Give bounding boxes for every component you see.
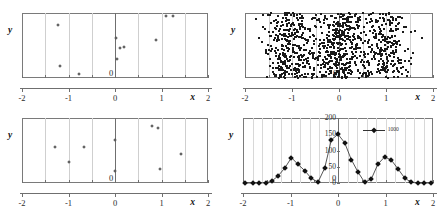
data-point	[118, 47, 121, 50]
data-point	[395, 51, 397, 53]
data-point	[280, 66, 282, 68]
data-point	[309, 36, 311, 38]
data-point	[380, 41, 382, 43]
data-point	[363, 26, 365, 28]
data-point	[301, 23, 303, 25]
data-point	[299, 75, 301, 77]
data-point	[313, 40, 315, 42]
data-point	[67, 160, 70, 163]
data-point	[385, 76, 387, 78]
data-point	[57, 23, 60, 26]
data-point	[336, 32, 338, 34]
data-point	[329, 70, 331, 72]
data-point	[379, 31, 381, 33]
data-point	[288, 30, 290, 32]
x-tick-label: -1	[287, 199, 294, 208]
data-point	[351, 58, 353, 60]
data-point	[346, 53, 348, 55]
data-point	[319, 71, 321, 73]
data-point	[395, 19, 397, 21]
data-point	[309, 30, 311, 32]
data-point	[370, 13, 372, 15]
data-point	[349, 13, 351, 15]
x-tick-label: 1	[383, 199, 387, 208]
data-point	[386, 58, 388, 60]
data-point	[337, 13, 339, 15]
data-point	[328, 73, 330, 75]
data-point	[392, 65, 394, 67]
data-point	[305, 76, 307, 78]
data-point	[78, 73, 81, 76]
data-point	[293, 56, 295, 58]
data-point	[329, 67, 331, 69]
data-point	[361, 59, 363, 61]
plot-area: -2-10120yx	[22, 13, 208, 78]
data-point	[315, 38, 317, 40]
data-point	[343, 55, 345, 57]
data-point	[391, 22, 393, 24]
data-point	[346, 25, 348, 27]
data-point	[354, 14, 356, 16]
data-point	[283, 29, 285, 31]
plot-area: -2-10120yx	[245, 13, 433, 78]
data-point	[359, 16, 361, 18]
data-point	[317, 64, 319, 66]
data-point	[311, 47, 313, 49]
legend-diamond-icon	[371, 128, 376, 133]
data-point	[355, 51, 357, 53]
data-point	[320, 67, 322, 69]
data-point	[375, 37, 377, 39]
data-point	[332, 24, 334, 26]
data-point	[277, 37, 279, 39]
data-point	[395, 29, 397, 31]
data-point	[385, 23, 387, 25]
data-point	[392, 30, 394, 32]
data-point	[339, 34, 341, 36]
data-point	[270, 12, 272, 14]
data-point	[286, 47, 288, 49]
data-point	[307, 60, 309, 62]
legend-marker	[363, 127, 385, 133]
data-point	[327, 51, 329, 53]
data-point	[346, 58, 348, 60]
data-point	[378, 60, 380, 62]
data-point	[284, 61, 286, 63]
data-point	[399, 44, 401, 46]
data-point	[362, 64, 364, 66]
x-minor-tick	[269, 75, 270, 78]
data-point	[350, 21, 352, 23]
data-point	[375, 21, 377, 23]
data-point	[321, 74, 323, 76]
data-point	[402, 66, 404, 68]
data-point	[314, 17, 316, 19]
data-point	[338, 74, 340, 76]
data-point	[322, 63, 324, 65]
data-point	[347, 28, 349, 30]
x-tick	[208, 89, 209, 92]
data-point	[313, 69, 315, 71]
data-point	[351, 51, 353, 53]
data-point	[343, 14, 345, 16]
data-point	[323, 39, 325, 41]
data-point	[306, 42, 308, 44]
data-point	[311, 73, 313, 75]
data-point	[369, 21, 371, 23]
data-point	[314, 25, 316, 27]
data-point	[379, 72, 381, 74]
data-point	[385, 14, 387, 16]
x-tick	[22, 194, 23, 197]
data-point	[359, 47, 361, 49]
data-point	[318, 45, 320, 47]
data-point	[344, 64, 346, 66]
data-point	[295, 70, 297, 72]
legend-label: 1000	[388, 127, 399, 133]
data-point	[343, 72, 345, 74]
data-point	[311, 76, 313, 78]
data-point	[349, 65, 351, 67]
x-minor-tick	[69, 75, 70, 78]
data-point	[304, 73, 306, 75]
data-point	[293, 24, 295, 26]
x-minor-tick	[22, 75, 23, 78]
data-point	[283, 49, 285, 51]
x-tick-label: 1	[159, 199, 163, 208]
